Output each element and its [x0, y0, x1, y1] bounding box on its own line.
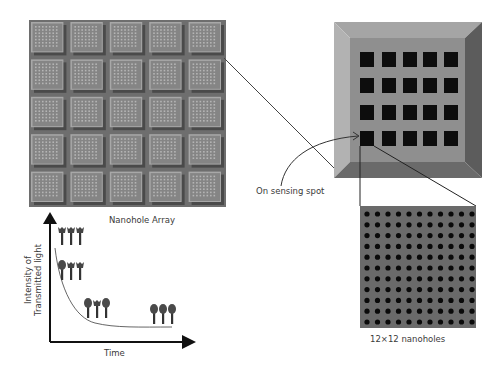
nanohole-dot: [364, 298, 369, 303]
chip-hole: [360, 131, 374, 146]
nanohole-dot: [406, 255, 411, 260]
array-tile: [110, 134, 145, 167]
nanoholes-count-label: 12×12 nanoholes: [370, 334, 445, 344]
nanohole-dot: [375, 287, 380, 292]
nanohole-dot: [417, 265, 422, 270]
array-tile: [110, 172, 145, 205]
nanohole-dot: [448, 211, 453, 216]
array-tile: [110, 97, 145, 130]
array-tile: [31, 22, 66, 55]
chip-hole: [444, 52, 458, 67]
nanohole-dot: [396, 222, 401, 227]
nanohole-dot: [469, 319, 474, 324]
nanohole-dot: [396, 265, 401, 270]
chip-bottom-bevel: [334, 162, 482, 178]
nanohole-dot: [448, 255, 453, 260]
chip-hole: [423, 52, 437, 67]
molecule-group: [150, 304, 176, 324]
nanohole-dot: [417, 309, 422, 314]
nanohole-dot: [438, 309, 443, 314]
nanohole-dot: [406, 244, 411, 249]
nanohole-dot: [385, 298, 390, 303]
antibody-icon: [67, 262, 75, 280]
nanohole-dot: [396, 233, 401, 238]
nanohole-dot: [427, 319, 432, 324]
nanohole-dot: [459, 222, 464, 227]
nanohole-dot: [375, 276, 380, 281]
on-sensing-spot-label: On sensing spot: [256, 186, 324, 196]
nanohole-dot: [406, 211, 411, 216]
chip-hole: [360, 105, 374, 120]
nanohole-dot: [469, 233, 474, 238]
chip-left-bevel: [334, 22, 350, 178]
chip-hole: [444, 131, 458, 146]
nanohole-dot: [417, 211, 422, 216]
nanohole-dot: [427, 276, 432, 281]
y-axis-arrowhead: [43, 212, 57, 224]
array-tile: [31, 172, 66, 205]
nanohole-dot: [427, 309, 432, 314]
array-tile: [149, 22, 184, 55]
nanohole-dot: [469, 298, 474, 303]
nanohole-dot: [364, 287, 369, 292]
nanohole-dot: [438, 255, 443, 260]
bound-antibody-icon: [102, 298, 110, 318]
nanohole-dot: [448, 276, 453, 281]
nanohole-dot: [459, 233, 464, 238]
nanohole-dot: [469, 309, 474, 314]
nanohole-dot: [438, 233, 443, 238]
nanohole-dot: [438, 222, 443, 227]
array-tile: [31, 97, 66, 130]
nanohole-dot: [417, 222, 422, 227]
y-axis-label-line1: Intensity of: [23, 244, 33, 316]
nanohole-dot: [427, 298, 432, 303]
nanohole-dot: [459, 255, 464, 260]
chip-hole: [382, 131, 396, 146]
nanohole-dot: [406, 222, 411, 227]
antibody-icon: [58, 227, 66, 245]
nanohole-dot: [385, 265, 390, 270]
nanohole-dot: [375, 255, 380, 260]
nanohole-dot: [438, 211, 443, 216]
nanohole-dot: [396, 319, 401, 324]
nanohole-dot: [427, 222, 432, 227]
antibody-icon: [76, 262, 84, 280]
antibody-icon: [76, 227, 84, 245]
nanohole-dot: [427, 233, 432, 238]
array-tile: [189, 134, 224, 167]
nanohole-dot: [417, 255, 422, 260]
chip-hole: [423, 105, 437, 120]
array-tile: [189, 59, 224, 92]
nanohole-sensor-diagram: [0, 0, 502, 368]
nanohole-dot: [448, 222, 453, 227]
molecule-group: [58, 227, 84, 245]
nanohole-dot: [364, 244, 369, 249]
nanohole-dot: [459, 319, 464, 324]
nanohole-dot: [438, 265, 443, 270]
nanohole-dot: [417, 287, 422, 292]
nanohole-dot: [448, 309, 453, 314]
nanohole-dot: [396, 211, 401, 216]
nanohole-dot: [375, 244, 380, 249]
chip-right-bevel: [465, 22, 482, 178]
chip-hole: [403, 78, 417, 93]
nanohole-dot: [385, 222, 390, 227]
nanohole-dot: [364, 309, 369, 314]
nanohole-dot: [406, 233, 411, 238]
nanohole-dot: [459, 309, 464, 314]
nanohole-dot: [385, 309, 390, 314]
chip-top-bevel: [334, 22, 482, 38]
nanohole-dot: [459, 265, 464, 270]
sensing-chip: [334, 22, 482, 178]
nanohole-dot: [375, 319, 380, 324]
nanohole-dot: [438, 276, 443, 281]
nanohole-dot: [448, 319, 453, 324]
nanohole-dot: [417, 233, 422, 238]
nanohole-dot: [396, 298, 401, 303]
bound-antibody-icon: [150, 304, 158, 324]
antibody-icon: [67, 227, 75, 245]
nanohole-dot: [375, 222, 380, 227]
chip-hole: [403, 52, 417, 67]
chip-hole: [444, 105, 458, 120]
nanohole-dot: [375, 233, 380, 238]
